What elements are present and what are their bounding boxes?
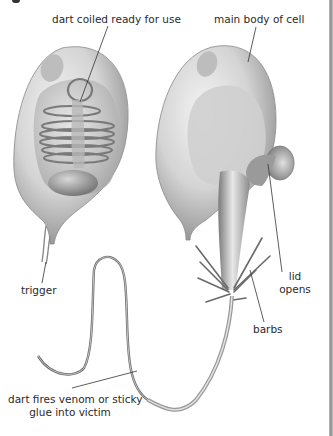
label-main-body: main body of cell [214,13,304,26]
unfired-cell [14,47,128,264]
label-lid-line2: opens [275,283,315,296]
label-dart-coiled: dart coiled ready for use [52,13,181,26]
page-edge [329,0,333,436]
label-dart-fires-line2: glue into victim [8,406,132,419]
label-lid-line1: lid [275,270,315,283]
label-dart-fires-line1: dart fires venom or sticky [8,393,132,406]
fired-cell [148,46,294,410]
label-trigger: trigger [21,284,56,297]
label-dart-fires: dart fires venom or sticky glue into vic… [8,393,132,419]
dart-thread [38,257,148,400]
label-barbs: barbs [253,323,283,336]
label-lid-opens: lid opens [275,270,315,296]
diagram-page: dart coiled ready for use main body of c… [0,0,333,436]
cnidocyte-illustration [0,0,333,436]
